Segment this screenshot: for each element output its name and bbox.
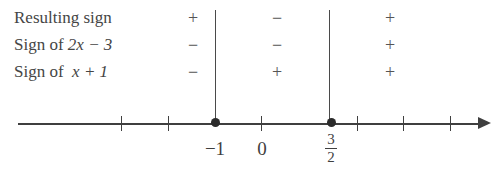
row-label-text: Sign of [14, 62, 68, 81]
divider-at-minus-1 [215, 10, 216, 124]
sign-cell-r1-c0: − [182, 35, 204, 55]
divider-at-three-halves [329, 10, 330, 124]
fraction: 3 2 [325, 132, 337, 165]
row-expression: 2x − 3 [68, 35, 113, 54]
sign-cell-r0-c2: + [379, 8, 401, 28]
row-label-sign-of-2x-minus-3: Sign of 2x − 3 [14, 35, 112, 55]
axis-tick [357, 116, 358, 131]
axis-tick [450, 116, 451, 131]
row-label-resulting-sign: Resulting sign [14, 8, 112, 28]
sign-cell-r2-c2: + [379, 62, 401, 82]
axis-arrow-right-icon [478, 117, 491, 129]
row-label-sign-of-x-plus-1: Sign of x + 1 [14, 62, 108, 82]
axis-label-zero: 0 [238, 138, 286, 160]
sign-cell-r2-c0: − [182, 62, 204, 82]
axis-tick [121, 116, 122, 131]
sign-cell-r1-c1: − [266, 35, 288, 55]
critical-point-dot-three-halves [327, 118, 336, 127]
critical-point-dot-minus-1 [211, 118, 220, 127]
axis-tick [261, 116, 262, 131]
fraction-numerator: 3 [325, 132, 337, 147]
row-label-text: Resulting sign [14, 8, 112, 27]
axis-tick [168, 116, 169, 131]
sign-cell-r0-c0: + [182, 8, 204, 28]
sign-cell-r0-c1: − [266, 8, 288, 28]
sign-chart-figure: Resulting sign Sign of 2x − 3 Sign of x … [0, 0, 504, 171]
sign-cell-r1-c2: + [379, 35, 401, 55]
number-line-axis [18, 123, 482, 125]
axis-tick [403, 116, 404, 131]
axis-label-minus-1: −1 [191, 138, 239, 160]
sign-cell-r2-c1: + [266, 62, 288, 82]
axis-label-three-halves: 3 2 [307, 132, 355, 165]
row-expression: x + 1 [72, 62, 108, 81]
row-label-text: Sign of [14, 35, 68, 54]
fraction-denominator: 2 [325, 150, 337, 165]
